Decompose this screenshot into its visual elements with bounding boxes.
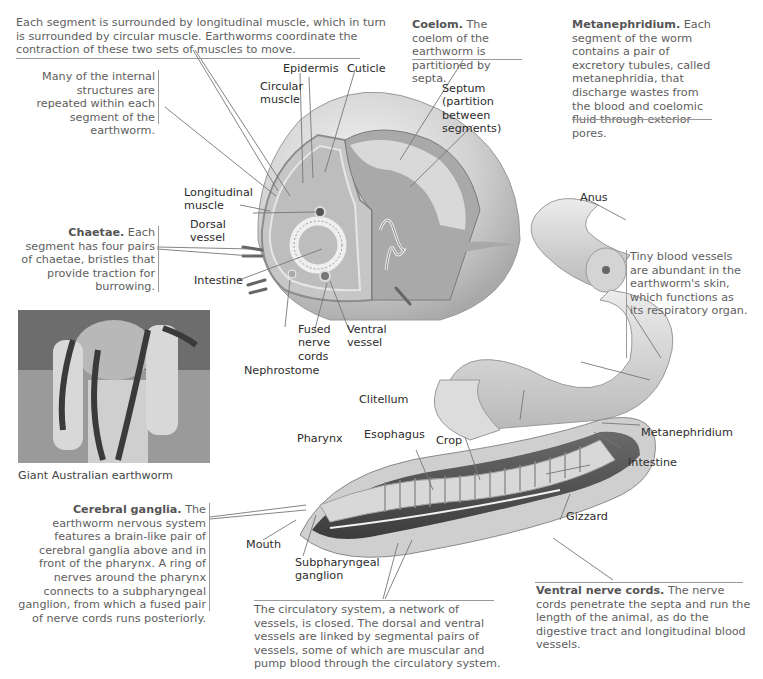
ventral-nerve-cords-note: Ventral nerve cords. The nerve cords pen…: [536, 584, 756, 652]
label-cuticle: Cuticle: [347, 62, 386, 75]
label-fused-nerve-cords: Fusednervecords: [298, 323, 331, 363]
divider: [254, 600, 494, 601]
label-esophagus: Esophagus: [364, 428, 425, 441]
label-circular-muscle: Circularmuscle: [260, 80, 303, 107]
label-subpharyngeal-ganglion: Subpharyngealganglion: [295, 556, 380, 583]
divider: [209, 503, 210, 611]
label-nephrostome: Nephrostome: [244, 364, 319, 377]
chaetae-note: Chaetae. Each segment has four pairs of …: [20, 226, 155, 294]
metanephridium-note: Metanephridium. Each segment of the worm…: [572, 18, 714, 140]
label-longitudinal-muscle: Longitudinalmuscle: [184, 186, 253, 213]
divider: [572, 119, 712, 120]
cerebral-ganglia-note: Cerebral ganglia. The earthworm nervous …: [14, 503, 206, 625]
label-pharynx: Pharynx: [297, 432, 343, 445]
label-anus: Anus: [580, 191, 608, 204]
label-intestine: Intestine: [628, 456, 677, 469]
divider: [412, 59, 522, 60]
label-dorsal-vessel: Dorsalvessel: [190, 218, 226, 245]
divider: [626, 250, 627, 358]
segment-muscle-note: Each segment is surrounded by longitudin…: [16, 16, 386, 57]
giant-australian-earthworm-photo: [18, 310, 210, 463]
photo-caption: Giant Australian earthworm: [18, 469, 173, 482]
divider: [158, 226, 159, 292]
label-intestine-cross-section: Intestine: [194, 274, 243, 287]
label-septum: Septum(partitionbetweensegments): [442, 82, 501, 136]
label-gizzard: Gizzard: [566, 510, 608, 523]
label-crop: Crop: [436, 434, 462, 447]
divider: [16, 58, 360, 59]
divider: [535, 582, 743, 583]
label-mouth: Mouth: [246, 538, 281, 551]
skin-blood-vessels-note: Tiny blood vessels are abundant in the e…: [630, 250, 750, 318]
label-ventral-vessel: Ventralvessel: [347, 323, 387, 350]
circulatory-system-note: The circulatory system, a network of ves…: [254, 603, 504, 671]
repeated-structures-note: Many of the internal structures are repe…: [26, 70, 155, 138]
coelom-note: Coelom. The coelom of the earthworm is p…: [412, 18, 524, 86]
label-clitellum: Clitellum: [359, 393, 409, 406]
divider: [158, 70, 159, 124]
label-epidermis: Epidermis: [283, 62, 339, 75]
worm-tail: [531, 199, 630, 292]
label-metanephridium: Metanephridium: [641, 426, 733, 439]
